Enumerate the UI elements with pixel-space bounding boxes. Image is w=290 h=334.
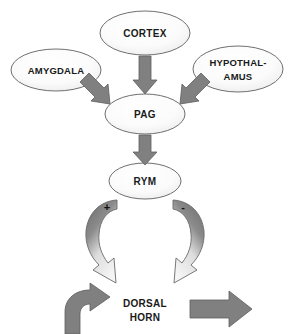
- dorsal-horn-right-arrow: [190, 291, 252, 327]
- diagram-canvas: CORTEX AMYGDALA HYPOTHAL- AMUS PAG RYM: [0, 0, 290, 334]
- bent-arrow-right-icon: [65, 283, 110, 334]
- dorsal-horn-label-line1: DORSAL: [123, 298, 167, 309]
- node-cortex[interactable]: CORTEX: [100, 11, 190, 55]
- edge-hypothalamus-to-pag: [180, 73, 210, 104]
- node-hypothalamus-label-line1: HYPOTHAL-: [209, 57, 266, 68]
- arrow-diagonal-hypothalamus-pag: [180, 73, 210, 104]
- edge-rym-to-dorsal-horn-left: +: [86, 200, 117, 283]
- sign-label-inhibitory: -: [181, 201, 185, 213]
- node-rym[interactable]: RYM: [109, 163, 181, 199]
- edge-cortex-to-pag: [133, 56, 157, 94]
- node-rym-label: RYM: [134, 176, 157, 187]
- arrow-down-pag-rym: [133, 135, 157, 165]
- node-cortex-label: CORTEX: [123, 28, 166, 39]
- edge-rym-to-dorsal-horn-right: -: [173, 200, 204, 283]
- node-pag-label: PAG: [134, 109, 156, 120]
- block-arrow-right-icon: [190, 291, 252, 327]
- arrow-down-cortex-pag: [133, 56, 157, 94]
- node-pag[interactable]: PAG: [105, 94, 185, 134]
- edge-pag-to-rym: [133, 135, 157, 165]
- dorsal-horn-left-arrow: [65, 283, 110, 334]
- node-hypothalamus-label-line2: AMUS: [224, 71, 253, 82]
- node-amygdala-label: AMYGDALA: [28, 65, 85, 76]
- dorsal-horn-label-line2: HORN: [130, 312, 161, 323]
- sign-label-excitatory: +: [104, 201, 110, 213]
- curved-arrow-excitatory: [86, 200, 117, 283]
- dorsal-horn-label: DORSAL HORN: [123, 298, 167, 323]
- curved-arrow-inhibitory: [173, 200, 204, 283]
- pain-modulation-diagram: CORTEX AMYGDALA HYPOTHAL- AMUS PAG RYM: [0, 0, 290, 334]
